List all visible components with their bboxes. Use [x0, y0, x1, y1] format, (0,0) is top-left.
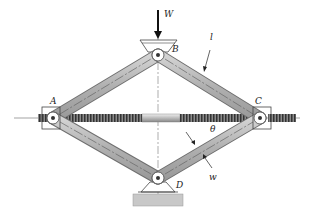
- label-d: D: [175, 180, 183, 190]
- pin-a: [47, 112, 59, 124]
- label-load: W: [164, 9, 174, 19]
- pin-d: [152, 172, 164, 184]
- load-arrow-icon: [154, 10, 162, 39]
- label-b: B: [171, 44, 179, 54]
- label-theta: θ: [210, 124, 216, 134]
- pin-c: [254, 112, 266, 124]
- label-l: l: [210, 32, 213, 42]
- pin-b: [152, 49, 164, 61]
- label-a: A: [49, 96, 57, 106]
- label-w: w: [209, 172, 217, 182]
- scissor-jack-diagram: W B A C D l w θ: [0, 0, 313, 212]
- label-c: C: [255, 96, 262, 106]
- length-arrow-icon: [203, 50, 210, 72]
